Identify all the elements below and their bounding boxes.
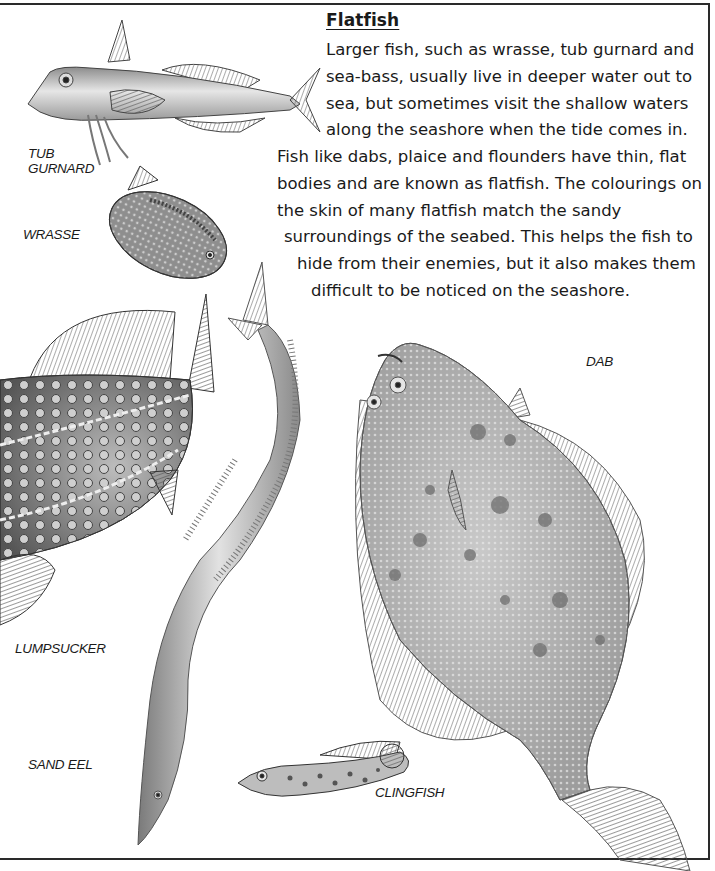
- label-line: GURNARD: [28, 161, 94, 176]
- paragraph-line: Fish like dabs, plaice and flounders hav…: [277, 144, 686, 171]
- label-line: TUB: [28, 146, 94, 161]
- label-dab: DAB: [586, 354, 613, 369]
- paragraph-line: bodies and are known as flatfish. The co…: [277, 171, 702, 198]
- paragraph-line: sea-bass, usually live in deeper water o…: [326, 64, 692, 91]
- paragraph-line: Larger fish, such as wrasse, tub gurnard…: [326, 37, 694, 64]
- wrasse-fish: [96, 166, 241, 296]
- label-line: SAND EEL: [28, 757, 92, 772]
- paragraph-line: hide from their enemies, but it also mak…: [297, 251, 696, 278]
- label-sand-eel: SAND EEL: [28, 757, 92, 772]
- paragraph-line: difficult to be noticed on the seashore.: [311, 278, 630, 305]
- label-line: CLINGFISH: [375, 785, 444, 800]
- label-wrasse: WRASSE: [23, 227, 80, 242]
- paragraph-line: surroundings of the seabed. This helps t…: [284, 224, 693, 251]
- paragraph-line: sea, but sometimes visit the shallow wat…: [326, 91, 688, 118]
- label-line: DAB: [586, 354, 613, 369]
- label-clingfish: CLINGFISH: [375, 785, 444, 800]
- label-line: LUMPSUCKER: [15, 641, 106, 656]
- lumpsucker-fish: [0, 294, 214, 625]
- label-line: WRASSE: [23, 227, 80, 242]
- section-heading: Flatfish: [326, 10, 399, 30]
- paragraph-line: the skin of many flatfish match the sand…: [277, 198, 621, 225]
- label-tub-gurnard: TUB GURNARD: [28, 146, 94, 176]
- paragraph-line: along the seashore when the tide comes i…: [326, 117, 688, 144]
- label-lumpsucker: LUMPSUCKER: [15, 641, 106, 656]
